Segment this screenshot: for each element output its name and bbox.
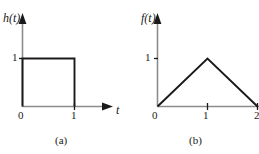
x-tick-label-a-1: 1 [71,110,77,121]
panel-caption-b: (b) [189,135,202,146]
panel-caption-a: (a) [55,135,67,146]
y-tick-label-b-1: 1 [145,52,151,63]
chart-panel-b: f(t) 1 0 1 2 (b) [129,0,259,154]
x-axis-label-a: t [116,104,119,116]
x-tick-label-b-0: 0 [152,110,158,121]
x-axis-arrowhead-a [102,103,113,111]
curve-f-of-t [158,59,258,107]
curve-h-of-t [23,59,75,107]
x-tick-label-b-1: 1 [203,110,209,121]
x-tick-label-a-0: 0 [18,110,24,121]
y-tick-label-a-1: 1 [12,52,18,63]
x-tick-label-b-2: 2 [254,110,259,121]
chart-panel-a: h(t) t 1 0 1 (a) [0,0,130,154]
y-axis-label-b: f(t) [141,12,156,24]
figure-container: h(t) t 1 0 1 (a) f(t) 1 0 1 2 (b) [0,0,259,154]
y-axis-label-a: h(t) [3,12,20,24]
